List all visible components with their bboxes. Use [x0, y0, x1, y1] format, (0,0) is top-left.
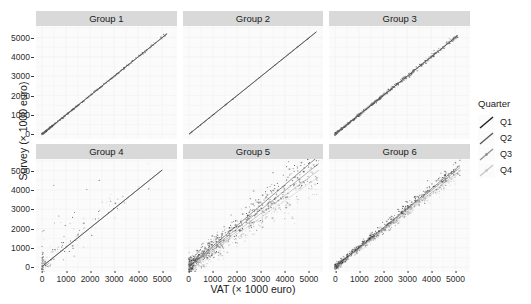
plot-area	[36, 26, 177, 139]
data-point	[280, 197, 281, 198]
data-point	[435, 192, 436, 193]
data-point	[447, 41, 448, 42]
data-point	[408, 206, 409, 207]
data-point	[92, 218, 93, 219]
data-point	[206, 257, 207, 258]
legend-key-q1	[478, 115, 495, 130]
data-point	[205, 266, 206, 267]
data-point	[247, 235, 248, 236]
data-point	[201, 244, 202, 245]
data-point	[374, 101, 375, 102]
data-point	[438, 48, 439, 49]
data-point	[373, 234, 374, 235]
data-point	[276, 211, 277, 212]
facet-strip-label: Group 4	[89, 147, 123, 157]
facet-strip: Group 5	[183, 144, 324, 159]
data-point	[424, 60, 425, 61]
data-point	[259, 226, 260, 227]
data-point	[296, 168, 297, 169]
legend-label: Q3	[500, 149, 512, 159]
data-point	[42, 257, 43, 258]
data-point	[373, 240, 374, 241]
data-point	[396, 222, 397, 223]
data-point	[454, 40, 455, 41]
data-point	[106, 202, 107, 203]
data-point	[45, 260, 46, 261]
data-point	[188, 265, 189, 266]
x-tick-label: 1000	[350, 274, 369, 284]
legend-item-q1[interactable]: Q1	[478, 114, 530, 130]
data-point	[235, 230, 236, 231]
data-point	[427, 190, 428, 191]
legend-key-q4	[478, 163, 495, 178]
data-point	[247, 218, 248, 219]
data-point	[47, 264, 48, 265]
x-tick-label: 1000	[57, 274, 76, 284]
data-point	[307, 179, 308, 180]
legend-item-q4[interactable]: Q4	[478, 162, 530, 178]
facet-panel-1: Group 1	[36, 11, 177, 139]
data-point	[383, 233, 384, 234]
legend-label: Q1	[500, 117, 512, 127]
data-point	[193, 256, 194, 257]
data-point	[144, 50, 145, 51]
legend-key-q2	[478, 131, 495, 146]
y-tick-label: 3000	[11, 204, 30, 214]
data-point	[265, 191, 266, 192]
legend-item-q3[interactable]: Q3	[478, 146, 530, 162]
x-tick-label: 5000	[299, 274, 318, 284]
data-point	[359, 250, 360, 251]
data-point	[382, 234, 383, 235]
data-point	[305, 184, 306, 185]
data-point	[73, 228, 74, 229]
data-point	[402, 208, 403, 209]
data-point	[382, 222, 383, 223]
data-point	[439, 197, 440, 198]
data-point	[424, 201, 425, 202]
data-point	[367, 245, 368, 246]
data-point	[215, 236, 216, 237]
data-point	[443, 188, 444, 189]
data-point	[95, 228, 96, 229]
x-tick-label: 4000	[129, 274, 148, 284]
legend-label: Q4	[500, 165, 512, 175]
data-point	[457, 37, 458, 38]
data-point	[460, 170, 461, 171]
data-point	[196, 252, 197, 253]
data-point	[236, 235, 237, 236]
data-point	[240, 234, 241, 235]
data-point	[222, 246, 223, 247]
data-point	[42, 261, 43, 262]
data-point	[203, 250, 204, 251]
data-point	[91, 235, 92, 236]
data-point	[53, 185, 54, 186]
data-point	[312, 194, 313, 195]
data-point	[224, 229, 225, 230]
data-point	[219, 250, 220, 251]
data-point	[401, 211, 402, 212]
data-point	[202, 259, 203, 260]
data-point	[198, 264, 199, 265]
data-point	[188, 252, 189, 253]
data-point	[425, 203, 426, 204]
data-point	[192, 261, 193, 262]
data-point	[163, 34, 164, 35]
data-point	[355, 254, 356, 255]
data-point	[409, 212, 410, 213]
data-point	[235, 238, 236, 239]
data-point	[453, 164, 454, 165]
data-point	[66, 242, 67, 243]
data-point	[223, 251, 224, 252]
legend-item-q2[interactable]: Q2	[478, 130, 530, 146]
data-point	[415, 199, 416, 200]
data-point	[307, 176, 308, 177]
data-point	[282, 198, 283, 199]
data-point	[230, 225, 231, 226]
data-point	[44, 239, 45, 240]
data-point	[409, 76, 410, 77]
data-point	[306, 181, 307, 182]
data-point	[218, 239, 219, 240]
y-tick-label: 5000	[11, 166, 30, 176]
data-point	[345, 257, 346, 258]
data-point	[451, 39, 452, 40]
